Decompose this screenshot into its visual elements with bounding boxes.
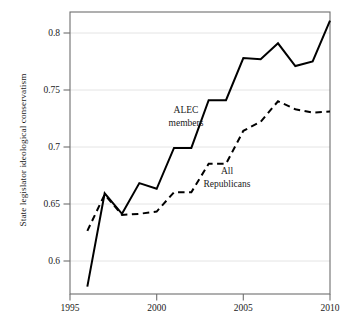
y-tick-label-0.6: 0.6	[48, 256, 60, 266]
x-tick-label-2000: 2000	[147, 303, 166, 313]
annotation-alec-line2: members	[169, 118, 204, 128]
y-tick-label-0.75: 0.75	[43, 85, 60, 95]
y-tick-label-0.8: 0.8	[48, 28, 60, 38]
annotation-rep-line1: All	[221, 166, 234, 176]
x-tick-label-2010: 2010	[321, 303, 340, 313]
line-chart-plot: 0.8 0.75 0.7 0.65 0.6 1995 2000 2005 201…	[0, 0, 353, 325]
annotation-rep-line2: Republicans	[204, 179, 251, 189]
x-tick-marks	[70, 294, 330, 301]
y-tick-marks	[64, 33, 71, 261]
x-tick-label-2005: 2005	[234, 303, 253, 313]
y-tick-label-0.7: 0.7	[48, 142, 60, 152]
x-tick-label-1995: 1995	[61, 303, 80, 313]
plot-background	[70, 12, 330, 294]
y-tick-label-0.65: 0.65	[43, 199, 60, 209]
chart-figure: State legislator ideological conservatis…	[0, 0, 353, 325]
annotation-alec-line1: ALEC	[174, 105, 199, 115]
